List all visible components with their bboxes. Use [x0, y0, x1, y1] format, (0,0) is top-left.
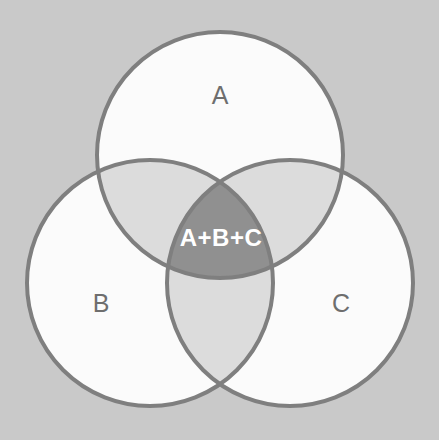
venn-diagram-canvas: A B C A+B+C: [0, 0, 439, 440]
set-a-label: A: [212, 81, 229, 109]
set-b-label: B: [93, 289, 110, 317]
set-c-label: C: [332, 289, 350, 317]
triple-intersection-label: A+B+C: [180, 224, 263, 251]
venn-diagram-figure: A B C A+B+C: [0, 0, 439, 440]
